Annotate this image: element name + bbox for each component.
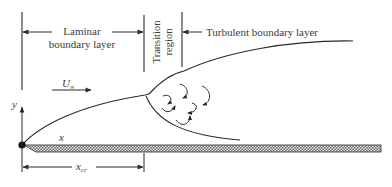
critical-length-label: xcr (75, 160, 87, 174)
transition-eddy-boundary (146, 96, 240, 140)
laminar-label-line1: Laminar (63, 25, 101, 37)
y-axis-label: y (11, 98, 17, 110)
transition-label-line2: region (163, 28, 174, 56)
flat-plate (24, 145, 381, 152)
turbulent-eddies-icon (162, 84, 210, 124)
transition-label-line1: Transition (151, 20, 162, 64)
laminar-label-line2: boundary layer (49, 38, 116, 50)
turbulent-label: Turbulent boundary layer (206, 26, 318, 38)
boundary-layer-diagram: Laminar boundary layer Transition region… (0, 0, 392, 187)
x-axis-label: x (58, 131, 64, 143)
freestream-velocity-label: U∞ (62, 77, 75, 90)
